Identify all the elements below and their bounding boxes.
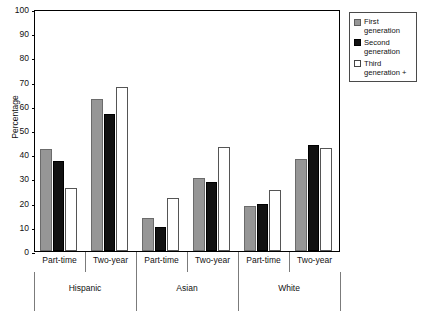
x-axis-sub-label: Two-year [289,255,340,265]
y-axis-title: Percentage [10,72,20,162]
y-axis-tick-label: 100 [15,5,29,15]
bars-layer [35,11,339,251]
bar [218,147,230,251]
bar [257,204,269,251]
x-axis-sub-label: Two-year [85,255,136,265]
y-axis-tick-label: 10 [20,223,29,233]
y-axis-tick-label: 30 [20,174,29,184]
bar [308,145,320,251]
y-axis-tick-label: 0 [24,247,29,257]
y-axis-tick-label: 90 [20,29,29,39]
bar [244,206,256,251]
x-axis-sub-separator [238,252,239,272]
legend-item-label: Second generation [364,38,413,57]
bar [167,198,179,251]
x-axis-sub-label: Part-time [136,255,187,265]
bar [206,182,218,251]
legend-item: First generation [354,17,413,36]
y-axis-tick-label: 20 [20,199,29,209]
x-axis-group-separator [136,272,137,311]
chart-legend: First generationSecond generationThird g… [349,12,417,82]
x-axis: Part-timeTwo-yearPart-timeTwo-yearPart-t… [34,252,340,311]
bar [142,218,154,251]
x-axis-group-separator [340,272,341,311]
bar-chart: 0102030405060708090100 Percentage Part-t… [0,0,421,311]
legend-item: Third generation + [354,59,413,78]
y-axis-tick-label: 70 [20,78,29,88]
x-axis-group-label: Hispanic [34,283,136,293]
black-swatch [354,39,361,46]
bar [320,148,332,251]
bar [104,114,116,251]
bar [155,227,167,251]
bar [53,161,65,251]
bar [295,159,307,251]
x-axis-group-label: White [238,283,340,293]
y-axis-tick-label: 40 [20,150,29,160]
bar [116,87,128,251]
y-axis-tick-label: 80 [20,53,29,63]
bar [65,188,77,251]
plot-area: 0102030405060708090100 [34,10,340,252]
bar [40,149,52,251]
x-axis-sub-separator [289,252,290,272]
bar [269,190,281,251]
y-axis-tick-label: 50 [20,126,29,136]
legend-item-label: Third generation + [364,59,413,78]
x-axis-sub-separator [187,252,188,272]
x-axis-group-label: Asian [136,283,238,293]
white-swatch [354,60,361,67]
y-axis-tick-label: 60 [20,102,29,112]
legend-item-label: First generation [364,17,413,36]
x-axis-group-separator [238,272,239,311]
x-axis-group-separator [34,272,35,311]
bar [193,178,205,251]
x-axis-sub-label: Part-time [34,255,85,265]
x-axis-sub-separator [85,252,86,272]
bar [91,99,103,251]
x-axis-sub-label: Part-time [238,255,289,265]
legend-item: Second generation [354,38,413,57]
gray-swatch [354,19,361,26]
x-axis-sub-label: Two-year [187,255,238,265]
chart-title [40,0,370,3]
x-axis-sub-separator [136,252,137,272]
